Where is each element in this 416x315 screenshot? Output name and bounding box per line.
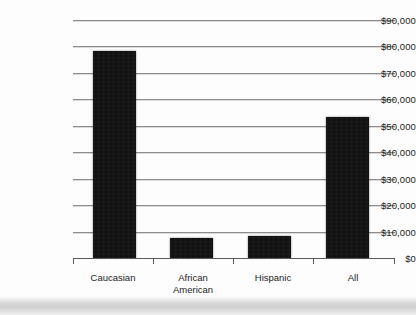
xtick-1 <box>153 258 154 264</box>
ytick-label-80000: $80,000 <box>354 41 416 52</box>
x-axis <box>73 258 395 259</box>
chart-page: $90,000 $80,000 $70,000 $60,000 $50,000 … <box>0 0 416 315</box>
xcat-label-caucasian: Caucasian <box>73 272 153 284</box>
ytick-label-70000: $70,000 <box>354 68 416 79</box>
bar-caucasian <box>93 51 136 258</box>
bar-hispanic <box>248 236 291 258</box>
bar-all <box>326 117 369 258</box>
xcat-label-all: All <box>313 272 393 284</box>
gridline-80000 <box>73 46 395 47</box>
gridline-90000 <box>73 20 395 21</box>
ytick-label-90000: $90,000 <box>354 15 416 26</box>
xcat-label-hispanic: Hispanic <box>233 272 313 284</box>
xtick-3 <box>313 258 314 264</box>
xtick-end <box>394 258 395 264</box>
scanned-page-edge <box>0 296 416 315</box>
xtick-start <box>73 258 74 264</box>
ytick-label-60000: $60,000 <box>354 94 416 105</box>
bar-african-american <box>170 238 213 258</box>
bar-chart: $90,000 $80,000 $70,000 $60,000 $50,000 … <box>0 0 416 315</box>
xcat-label-african-american: African American <box>153 272 233 295</box>
xtick-2 <box>233 258 234 264</box>
